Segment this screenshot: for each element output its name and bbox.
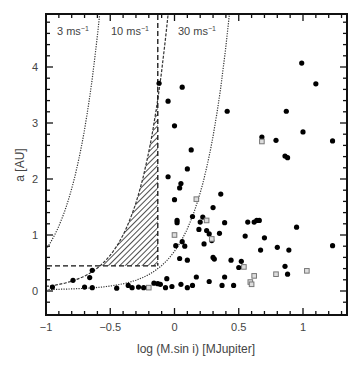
data-point bbox=[286, 248, 291, 253]
data-point bbox=[172, 123, 177, 128]
data-point bbox=[82, 284, 87, 289]
data-point bbox=[173, 243, 178, 248]
y-axis-label: a [AU] bbox=[13, 148, 27, 181]
data-point bbox=[217, 231, 222, 236]
curve-3-ms bbox=[46, 0, 104, 250]
curve-label: 3 ms−1 bbox=[57, 25, 89, 37]
data-point bbox=[90, 268, 95, 273]
data-point bbox=[275, 245, 280, 250]
data-point bbox=[219, 283, 224, 288]
data-point bbox=[207, 279, 212, 284]
curve-annotations: 3 ms−110 ms−130 ms−1 bbox=[57, 25, 216, 37]
data-point bbox=[178, 181, 183, 186]
data-point bbox=[156, 81, 161, 86]
data-point bbox=[210, 205, 215, 210]
data-point bbox=[330, 243, 335, 248]
x-tick-label: −0.5 bbox=[99, 321, 121, 333]
hatched-area bbox=[101, 11, 158, 266]
data-point bbox=[164, 276, 169, 281]
data-point bbox=[282, 264, 287, 269]
data-point bbox=[225, 109, 230, 114]
data-point bbox=[273, 138, 278, 143]
data-point-square bbox=[260, 139, 265, 144]
data-point bbox=[330, 138, 335, 143]
data-point bbox=[239, 259, 244, 264]
data-point-square bbox=[209, 237, 214, 242]
data-point bbox=[141, 285, 146, 290]
data-point-square bbox=[305, 269, 310, 274]
x-tick-label: 0.5 bbox=[231, 321, 246, 333]
data-point bbox=[50, 284, 55, 289]
data-point bbox=[114, 286, 119, 291]
data-point bbox=[285, 272, 290, 277]
data-point bbox=[185, 258, 190, 263]
data-point-square bbox=[249, 282, 254, 287]
data-point bbox=[236, 265, 241, 270]
data-point-square bbox=[242, 265, 247, 270]
data-point bbox=[172, 197, 177, 202]
data-point bbox=[313, 81, 318, 86]
y-tick-label: 0 bbox=[32, 285, 38, 297]
data-point bbox=[136, 284, 141, 289]
data-point bbox=[262, 235, 267, 240]
curve-label: 10 ms−1 bbox=[111, 25, 149, 37]
data-point bbox=[190, 214, 195, 219]
x-tick-label: 0 bbox=[171, 321, 177, 333]
data-point bbox=[177, 256, 182, 261]
data-point bbox=[189, 147, 194, 152]
data-point bbox=[90, 285, 95, 290]
data-point bbox=[243, 234, 248, 239]
data-point bbox=[180, 85, 185, 90]
data-point-square bbox=[172, 233, 177, 238]
data-point bbox=[228, 258, 233, 263]
x-tick-label: 1 bbox=[300, 321, 306, 333]
data-point bbox=[245, 220, 250, 225]
data-point bbox=[185, 285, 190, 290]
data-points bbox=[50, 60, 335, 290]
scatter-chart: −1−0.500.5101234 3 ms−110 ms−130 ms−1 lo… bbox=[0, 0, 361, 366]
data-point bbox=[165, 99, 170, 104]
y-tick-label: 3 bbox=[32, 117, 38, 129]
data-point bbox=[201, 241, 206, 246]
data-point bbox=[300, 129, 305, 134]
data-point bbox=[190, 283, 195, 288]
data-point bbox=[180, 239, 185, 244]
data-point bbox=[87, 275, 92, 280]
data-point bbox=[165, 174, 170, 179]
data-point bbox=[218, 192, 223, 197]
data-point bbox=[196, 227, 201, 232]
data-point bbox=[212, 256, 217, 261]
data-point bbox=[222, 220, 227, 225]
data-point bbox=[185, 166, 190, 171]
data-point bbox=[257, 218, 262, 223]
data-point bbox=[198, 220, 203, 225]
data-point bbox=[178, 282, 183, 287]
data-point bbox=[294, 225, 299, 230]
data-point bbox=[163, 285, 168, 290]
data-point bbox=[222, 274, 227, 279]
data-point-square bbox=[194, 197, 199, 202]
data-point bbox=[231, 283, 236, 288]
data-point bbox=[284, 109, 289, 114]
data-point bbox=[70, 278, 75, 283]
data-point bbox=[158, 282, 163, 287]
data-point bbox=[169, 284, 174, 289]
y-tick-label: 4 bbox=[32, 61, 38, 73]
hatched-region bbox=[101, 11, 158, 266]
y-tick-label: 1 bbox=[32, 229, 38, 241]
data-point bbox=[182, 244, 187, 249]
x-tick-label: −1 bbox=[40, 321, 53, 333]
data-point-square bbox=[252, 274, 257, 279]
curve-label: 30 ms−1 bbox=[178, 25, 216, 37]
data-point bbox=[285, 155, 290, 160]
x-axis-label: log (M.sin i) [MJupiter] bbox=[137, 342, 255, 356]
data-point bbox=[194, 274, 199, 279]
data-point-square bbox=[147, 285, 152, 290]
data-point bbox=[258, 248, 263, 253]
data-point bbox=[299, 60, 304, 65]
data-point-square bbox=[204, 218, 209, 223]
data-point bbox=[177, 185, 182, 190]
y-tick-label: 2 bbox=[32, 173, 38, 185]
data-point bbox=[174, 218, 179, 223]
data-point bbox=[129, 285, 134, 290]
